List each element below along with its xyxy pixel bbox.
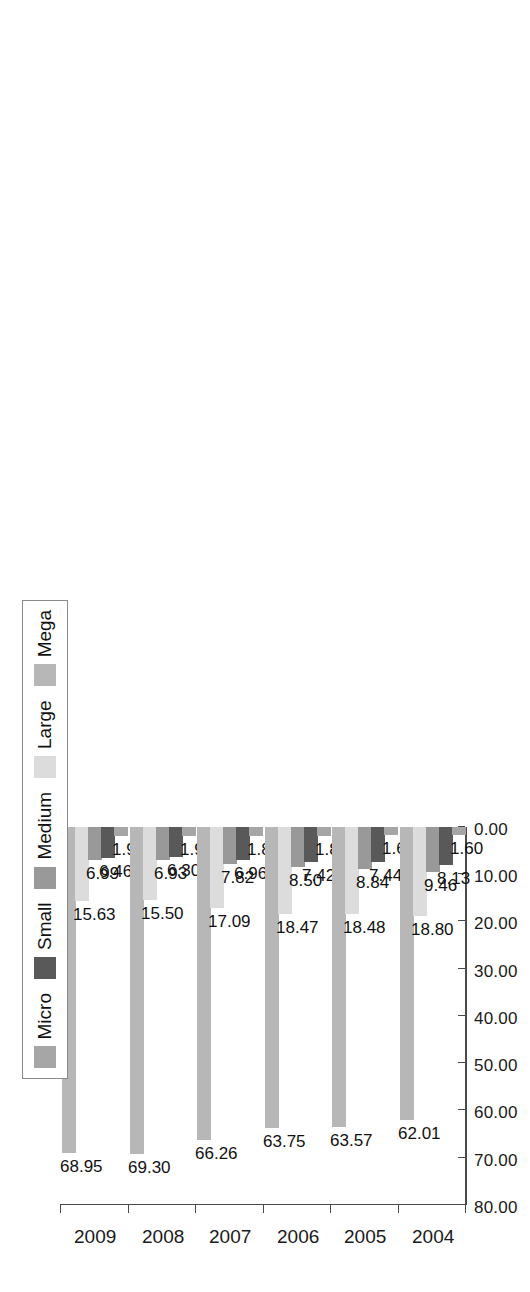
bar-value-label: 7.42 xyxy=(302,866,335,886)
value-tick xyxy=(458,1062,465,1063)
legend-swatch-medium-icon xyxy=(34,867,56,889)
bar-mega-2007 xyxy=(197,827,211,1140)
bar-medium-2009 xyxy=(88,827,102,860)
value-tick xyxy=(458,1015,465,1016)
bar-value-label: 1.60 xyxy=(450,839,483,859)
bar-medium-2007 xyxy=(223,827,237,864)
legend-item-small[interactable]: Small xyxy=(34,903,56,980)
bar-mega-2008 xyxy=(130,827,144,1154)
category-label: 2005 xyxy=(344,1226,386,1248)
bar-medium-2005 xyxy=(358,827,372,869)
bar-value-label: 17.09 xyxy=(208,912,251,932)
value-tick xyxy=(458,920,465,921)
category-label: 2007 xyxy=(209,1226,251,1248)
value-tick xyxy=(458,1157,465,1158)
bar-value-label: 63.57 xyxy=(330,1131,373,1151)
category-tick xyxy=(263,1205,264,1213)
value-tick-label: 60.00 xyxy=(474,1104,518,1124)
bar-micro-2009 xyxy=(114,827,128,836)
bar-mega-2006 xyxy=(265,827,279,1128)
bar-value-label: 18.48 xyxy=(343,918,386,938)
legend-item-mega[interactable]: Mega xyxy=(34,610,56,687)
value-tick-label: 0.00 xyxy=(474,820,508,840)
legend-label: Medium xyxy=(34,792,56,860)
legend-swatch-micro-icon xyxy=(34,1047,56,1069)
chart-plot-area: 80.0070.0060.0050.0040.0030.0020.0010.00… xyxy=(0,0,530,1292)
bar-value-label: 66.26 xyxy=(195,1144,238,1164)
bar-value-label: 63.75 xyxy=(263,1132,306,1152)
bar-value-label: 15.50 xyxy=(141,904,184,924)
bar-value-label: 68.95 xyxy=(60,1157,103,1177)
category-label: 2004 xyxy=(412,1226,454,1248)
bar-value-label: 6.30 xyxy=(167,861,200,881)
bar-large-2004 xyxy=(413,827,427,916)
legend-label: Small xyxy=(34,903,56,951)
category-tick xyxy=(465,1205,466,1213)
legend-label: Large xyxy=(34,700,56,749)
legend-item-large[interactable]: Large xyxy=(34,700,56,778)
bar-value-label: 8.13 xyxy=(437,869,470,889)
legend-swatch-large-icon xyxy=(34,756,56,778)
legend-item-medium[interactable]: Medium xyxy=(34,792,56,889)
legend-label: Mega xyxy=(34,610,56,658)
value-tick-label: 20.00 xyxy=(474,915,518,935)
bar-value-label: 18.80 xyxy=(411,920,454,940)
category-label: 2008 xyxy=(142,1226,184,1248)
category-label: 2006 xyxy=(277,1226,319,1248)
category-tick xyxy=(128,1205,129,1213)
legend-swatch-small-icon xyxy=(34,957,56,979)
bar-medium-2008 xyxy=(156,827,170,860)
bar-value-label: 7.44 xyxy=(369,866,402,886)
bar-value-label: 69.30 xyxy=(128,1158,171,1178)
bar-micro-2008 xyxy=(182,827,196,836)
bar-mega-2005 xyxy=(332,827,346,1127)
legend-label: Micro xyxy=(34,993,56,1039)
bar-medium-2006 xyxy=(291,827,305,867)
bar-value-label: 15.63 xyxy=(73,905,116,925)
value-tick-label: 50.00 xyxy=(474,1056,518,1076)
bar-value-label: 6.96 xyxy=(234,864,267,884)
legend-box: MicroSmallMediumLargeMega xyxy=(22,601,68,1080)
value-tick-label: 10.00 xyxy=(474,867,518,887)
value-tick-label: 80.00 xyxy=(474,1198,518,1218)
category-tick xyxy=(195,1205,196,1213)
legend-item-micro[interactable]: Micro xyxy=(34,993,56,1068)
bar-micro-2005 xyxy=(384,827,398,835)
category-tick xyxy=(330,1205,331,1213)
bar-micro-2006 xyxy=(317,827,331,836)
rotated-chart-canvas: 80.0070.0060.0050.0040.0030.0020.0010.00… xyxy=(0,0,530,1292)
bar-micro-2007 xyxy=(249,827,263,836)
legend-swatch-mega-icon xyxy=(34,664,56,686)
bar-value-label: 6.46 xyxy=(99,862,132,882)
bar-medium-2004 xyxy=(426,827,440,872)
bar-large-2005 xyxy=(345,827,359,914)
value-tick xyxy=(458,1204,465,1205)
bar-mega-2004 xyxy=(400,827,414,1120)
value-tick-label: 40.00 xyxy=(474,1009,518,1029)
bar-value-label: 62.01 xyxy=(398,1124,441,1144)
value-tick xyxy=(458,1109,465,1110)
category-tick xyxy=(398,1205,399,1213)
value-tick-label: 70.00 xyxy=(474,1151,518,1171)
category-label: 2009 xyxy=(74,1226,116,1248)
value-tick-label: 30.00 xyxy=(474,962,518,982)
bar-micro-2004 xyxy=(452,827,466,835)
category-tick xyxy=(60,1205,61,1213)
bar-value-label: 18.47 xyxy=(276,918,319,938)
value-tick xyxy=(458,968,465,969)
